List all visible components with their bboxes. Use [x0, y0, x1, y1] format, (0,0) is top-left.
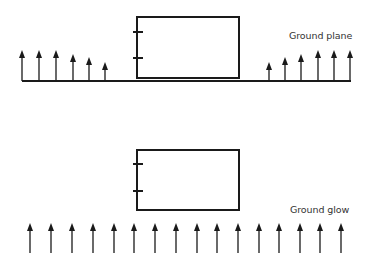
arrow-head — [276, 223, 282, 231]
arrow-head — [70, 54, 76, 62]
arrow-head — [331, 50, 337, 58]
arrow-up-icon — [86, 57, 92, 81]
arrow-head — [86, 57, 92, 65]
arrow-head — [266, 62, 272, 70]
arrow-head — [36, 50, 42, 58]
arrow-head — [90, 223, 96, 231]
arrow-up-icon — [53, 50, 59, 81]
arrow-head — [19, 50, 25, 58]
arrow-up-icon — [131, 223, 137, 253]
arrow-head — [69, 223, 75, 231]
arrow-head — [282, 57, 288, 65]
arrow-head — [315, 50, 321, 58]
arrow-up-icon — [69, 223, 75, 253]
arrow-up-icon — [111, 223, 117, 253]
arrow-head — [235, 223, 241, 231]
arrow-head — [173, 223, 179, 231]
arrow-up-icon — [70, 54, 76, 81]
arrow-head — [152, 223, 158, 231]
arrow-up-icon — [317, 223, 323, 253]
arrow-head — [53, 50, 59, 58]
arrow-up-icon — [235, 223, 241, 253]
arrow-head — [27, 223, 33, 231]
object-box — [137, 17, 239, 78]
arrow-head — [298, 54, 304, 62]
ground-plane-panel — [19, 17, 353, 81]
arrow-up-icon — [331, 50, 337, 81]
arrow-head — [102, 62, 108, 70]
arrow-up-icon — [27, 223, 33, 253]
arrow-up-icon — [276, 223, 282, 253]
arrow-up-icon — [297, 223, 303, 253]
arrow-up-icon — [315, 50, 321, 81]
arrow-up-icon — [102, 62, 108, 81]
arrow-up-icon — [90, 223, 96, 253]
arrow-up-icon — [173, 223, 179, 253]
arrow-up-icon — [19, 50, 25, 81]
arrow-head — [297, 223, 303, 231]
arrow-up-icon — [152, 223, 158, 253]
arrow-head — [48, 223, 54, 231]
arrow-up-icon — [347, 50, 353, 81]
arrow-up-icon — [298, 54, 304, 81]
arrow-up-icon — [36, 50, 42, 81]
ground-glow-label: Ground glow — [290, 204, 349, 215]
arrow-head — [347, 50, 353, 58]
arrow-up-icon — [194, 223, 200, 253]
arrow-up-icon — [282, 57, 288, 81]
arrow-up-icon — [48, 223, 54, 253]
arrow-head — [194, 223, 200, 231]
arrow-head — [214, 223, 220, 231]
arrow-up-icon — [214, 223, 220, 253]
arrow-head — [111, 223, 117, 231]
ground-glow-panel — [27, 150, 344, 253]
object-box — [137, 150, 239, 210]
arrow-head — [131, 223, 137, 231]
arrow-up-icon — [256, 223, 262, 253]
arrow-head — [338, 223, 344, 231]
arrow-head — [256, 223, 262, 231]
arrow-head — [317, 223, 323, 231]
arrow-up-icon — [338, 223, 344, 253]
ground-plane-label: Ground plane — [289, 30, 352, 41]
arrow-up-icon — [266, 62, 272, 81]
